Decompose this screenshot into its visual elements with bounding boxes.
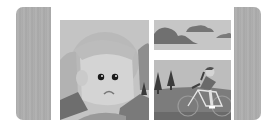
clouds-illustration [154,20,231,50]
cyclist-illustration [154,60,231,120]
previous-slide-strip[interactable] [16,7,51,120]
slide-clouds-image[interactable] [154,20,231,50]
slide-face-image[interactable] [60,20,149,120]
slide-cyclist-image[interactable] [154,60,231,120]
next-slide-strip[interactable] [234,7,261,120]
sad-face-illustration [60,20,149,120]
